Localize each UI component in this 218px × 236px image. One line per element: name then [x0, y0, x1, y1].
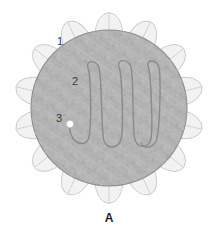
- white-start-dot: [66, 120, 73, 127]
- callout-label-2: 2: [72, 76, 78, 87]
- panel-label: A: [0, 212, 218, 224]
- callout-label-3: 3: [56, 113, 62, 124]
- figure-panel-a: 1 2 3 A: [0, 0, 218, 236]
- gear-diagram-svg: [0, 0, 218, 236]
- callout-label-1: 1: [57, 36, 63, 47]
- textured-inner-disc: [31, 30, 187, 186]
